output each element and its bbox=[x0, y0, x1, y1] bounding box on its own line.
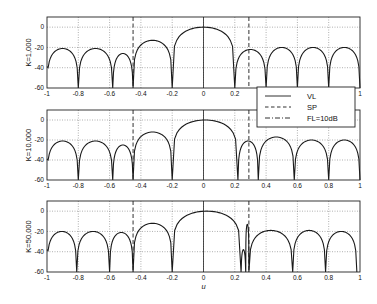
x-tick-label: 1 bbox=[358, 274, 362, 281]
x-tick-label: 0.2 bbox=[230, 274, 239, 281]
x-tick-label: -0.8 bbox=[73, 274, 85, 281]
x-tick-label: 0 bbox=[202, 182, 206, 189]
y-axis-label: K=50,000 bbox=[24, 220, 33, 252]
legend-label: SP bbox=[307, 103, 317, 112]
x-tick-label: -1 bbox=[44, 182, 50, 189]
vl-curve bbox=[47, 211, 357, 272]
y-tick-label: -40 bbox=[35, 156, 45, 163]
y-tick-label: -20 bbox=[35, 44, 45, 51]
x-tick-label: 0.2 bbox=[230, 182, 239, 189]
x-tick-label: 1 bbox=[358, 182, 362, 189]
y-tick-label: -60 bbox=[35, 84, 45, 91]
y-tick-label: -60 bbox=[35, 176, 45, 183]
x-tick-label: 0.4 bbox=[262, 182, 271, 189]
x-tick-label: 0.8 bbox=[324, 274, 333, 281]
x-tick-label: 0 bbox=[202, 90, 206, 97]
x-tick-label: -0.2 bbox=[167, 274, 179, 281]
legend-label: FL=10dB bbox=[307, 114, 338, 123]
y-tick-label: -40 bbox=[35, 64, 45, 71]
x-tick-label: 0.2 bbox=[230, 90, 239, 97]
figure: -1-0.8-0.6-0.4-0.200.20.40.60.81-60-40-2… bbox=[0, 0, 377, 304]
x-tick-label: -0.2 bbox=[167, 182, 179, 189]
y-axis-label: K=10,000 bbox=[24, 129, 33, 161]
x-tick-label: 0.6 bbox=[293, 274, 302, 281]
y-tick-label: 0 bbox=[40, 116, 44, 123]
y-tick-label: -20 bbox=[35, 136, 45, 143]
x-tick-label: 0.8 bbox=[324, 182, 333, 189]
y-tick-label: 0 bbox=[40, 23, 44, 30]
x-tick-label: -0.4 bbox=[135, 182, 147, 189]
x-tick-label: -0.8 bbox=[73, 182, 85, 189]
y-tick-label: -60 bbox=[35, 268, 45, 275]
x-tick-label: -0.6 bbox=[104, 90, 116, 97]
subplot-3: -1-0.8-0.6-0.4-0.200.20.40.60.81-60-40-2… bbox=[24, 201, 362, 291]
subplot-1: -1-0.8-0.6-0.4-0.200.20.40.60.81-60-40-2… bbox=[24, 17, 362, 97]
x-tick-label: -0.8 bbox=[73, 90, 85, 97]
x-tick-label: -0.6 bbox=[104, 182, 116, 189]
x-tick-label: -1 bbox=[44, 274, 50, 281]
x-tick-label: -0.2 bbox=[167, 90, 179, 97]
x-tick-label: -0.4 bbox=[135, 274, 147, 281]
y-axis-label: K=1,000 bbox=[24, 38, 33, 66]
legend: VLSPFL=10dB bbox=[257, 87, 355, 127]
x-axis-label: u bbox=[201, 282, 206, 291]
x-tick-label: -1 bbox=[44, 90, 50, 97]
y-tick-label: -20 bbox=[35, 228, 45, 235]
x-tick-label: 0 bbox=[202, 274, 206, 281]
y-tick-label: 0 bbox=[40, 207, 44, 214]
x-tick-label: 1 bbox=[358, 90, 362, 97]
legend-label: VL bbox=[307, 92, 316, 101]
x-tick-label: 0.6 bbox=[293, 182, 302, 189]
x-tick-label: -0.6 bbox=[104, 274, 116, 281]
x-tick-label: 0.4 bbox=[262, 274, 271, 281]
y-tick-label: -40 bbox=[35, 248, 45, 255]
x-tick-label: -0.4 bbox=[135, 90, 147, 97]
